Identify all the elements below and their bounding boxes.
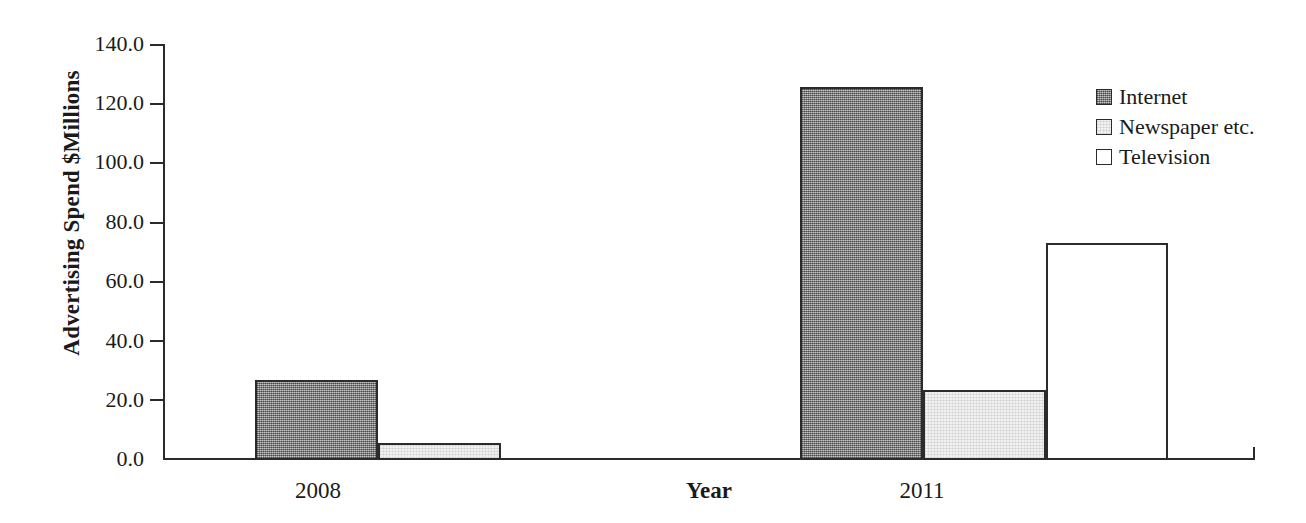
y-tick-mark-120 <box>150 103 164 105</box>
legend-label-internet: Internet <box>1119 86 1187 108</box>
bar-chart: Advertising Spend $Millions 140.0 120.0 … <box>0 0 1306 523</box>
bar-2011-internet <box>800 87 923 460</box>
y-tick-mark-40 <box>150 340 164 342</box>
y-tick-label-0: 0.0 <box>117 448 145 470</box>
y-tick-label-120: 120.0 <box>95 92 145 114</box>
y-tick-mark-140 <box>150 44 164 46</box>
x-category-label-2008: 2008 <box>258 478 378 504</box>
y-tick-label-40: 40.0 <box>106 330 145 352</box>
legend-swatch-internet-icon <box>1096 89 1112 105</box>
y-tick-label-100: 100.0 <box>95 151 145 173</box>
y-tick-label-60: 60.0 <box>106 270 145 292</box>
y-tick-label-80: 80.0 <box>106 211 145 233</box>
legend-label-newspaper: Newspaper etc. <box>1119 116 1255 138</box>
legend-item-newspaper: Newspaper etc. <box>1096 112 1255 142</box>
y-axis-line <box>163 44 165 460</box>
x-axis-title: Year <box>629 478 789 504</box>
y-tick-label-20: 20.0 <box>106 389 145 411</box>
legend-item-internet: Internet <box>1096 82 1255 112</box>
bar-2011-newspaper <box>923 390 1046 460</box>
bar-2008-newspaper <box>378 443 501 460</box>
y-tick-label-140: 140.0 <box>95 33 145 55</box>
y-tick-mark-100 <box>150 162 164 164</box>
y-axis-title: Advertising Spend $Millions <box>59 23 85 403</box>
y-tick-mark-60 <box>150 281 164 283</box>
legend-item-television: Television <box>1096 142 1255 172</box>
legend-label-television: Television <box>1119 146 1210 168</box>
bar-2011-television <box>1046 243 1168 460</box>
legend-swatch-television-icon <box>1096 149 1112 165</box>
legend: Internet Newspaper etc. Television <box>1096 82 1255 172</box>
y-tick-mark-20 <box>150 399 164 401</box>
legend-swatch-newspaper-icon <box>1096 119 1112 135</box>
bar-2008-internet <box>255 380 378 460</box>
x-axis-endcap <box>1253 447 1255 460</box>
y-tick-mark-80 <box>150 222 164 224</box>
x-category-label-2011: 2011 <box>862 478 982 504</box>
